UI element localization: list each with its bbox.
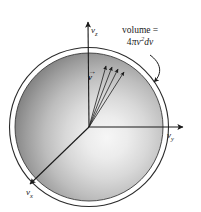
axis-label-vx: vx (26, 188, 33, 200)
volume-formula-dv: dv (144, 37, 153, 47)
axis-label-vy: vy (167, 131, 174, 143)
axis-label-vy-subscript: y (171, 135, 174, 142)
axis-label-vz: vz (91, 26, 98, 38)
figure-container: vz vy vx →v volume = 4πv2dv (0, 0, 201, 212)
velocity-vector-symbol: v (88, 72, 92, 82)
volume-annotation: volume = 4πv2dv (122, 26, 158, 48)
axis-label-vz-subscript: z (95, 30, 98, 37)
velocity-space-sphere-diagram (0, 0, 201, 212)
axis-label-vx-subscript: x (30, 192, 33, 199)
velocity-vector-label: →v (88, 70, 96, 82)
volume-annotation-line2: 4πv2dv (122, 36, 158, 48)
